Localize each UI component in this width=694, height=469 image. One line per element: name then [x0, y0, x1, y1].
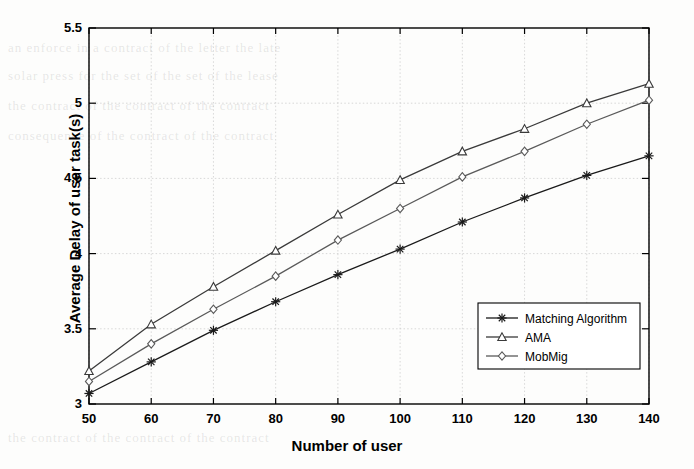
x-tick-label-140: 140 — [629, 411, 669, 426]
y-tick-label-3-5: 3.5 — [42, 321, 82, 336]
legend-marker-star-icon — [497, 313, 506, 322]
x-tick-label-120: 120 — [505, 411, 545, 426]
legend-label-0: Matching Algorithm — [525, 312, 627, 326]
chart-legend[interactable]: Matching AlgorithmAMAMobMig — [478, 303, 640, 369]
x-tick-label-130: 130 — [567, 411, 607, 426]
legend-label-1: AMA — [525, 331, 551, 345]
y-tick-label-3: 3 — [42, 396, 82, 411]
y-tick-label-5: 5 — [42, 95, 82, 110]
x-tick-label-110: 110 — [442, 411, 482, 426]
plot-area: Matching AlgorithmAMAMobMig — [0, 0, 694, 469]
x-axis-title: Number of user — [0, 437, 694, 454]
x-tick-label-80: 80 — [256, 411, 296, 426]
y-tick-label-4: 4 — [42, 246, 82, 261]
x-tick-label-70: 70 — [193, 411, 233, 426]
x-tick-label-60: 60 — [131, 411, 171, 426]
legend-label-2: MobMig — [525, 350, 568, 364]
x-tick-label-100: 100 — [380, 411, 420, 426]
x-tick-label-90: 90 — [318, 411, 358, 426]
y-tick-label-5-5: 5.5 — [42, 20, 82, 35]
y-tick-label-4-5: 4.5 — [42, 170, 82, 185]
y-axis-title: Average Delay of user task(s) — [66, 29, 83, 409]
chart-figure: an enforce in a contract of the letter t… — [0, 0, 694, 469]
x-tick-label-50: 50 — [69, 411, 109, 426]
